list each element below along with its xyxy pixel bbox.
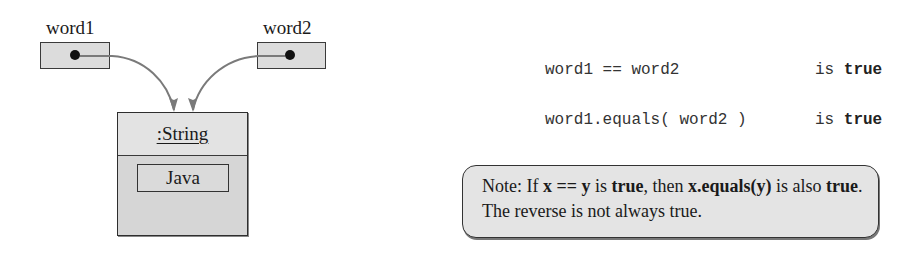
object-type-title: :String xyxy=(157,123,209,145)
reference-dot-icon xyxy=(70,50,80,60)
note-text: is also xyxy=(772,176,827,196)
note-expr-equals: x.equals(y) xyxy=(688,176,772,196)
is-label: is xyxy=(815,111,834,129)
comparison-expression-2: word1.equals( word2 ) xyxy=(545,111,747,129)
comparison-result-2: is true xyxy=(815,111,882,129)
note-true: true xyxy=(612,176,644,196)
reference-dot-icon xyxy=(285,50,295,60)
result-value: true xyxy=(844,61,882,79)
result-value: true xyxy=(844,111,882,129)
string-object: :String Java xyxy=(117,112,248,236)
note-text: is xyxy=(591,176,612,196)
is-label: is xyxy=(815,61,834,79)
note-true: true xyxy=(826,176,858,196)
note-box: Note: If x == y is true, then x.equals(y… xyxy=(462,165,879,238)
object-header: :String xyxy=(118,113,247,156)
comparison-expression-1: word1 == word2 xyxy=(545,61,679,79)
comparison-result-1: is true xyxy=(815,61,882,79)
note-expr-equality: x == y xyxy=(543,176,591,196)
reference-box-word1 xyxy=(40,42,110,69)
object-value-box: Java xyxy=(137,164,229,192)
variable-label-word2: word2 xyxy=(263,18,312,37)
reference-box-word2 xyxy=(257,42,326,69)
object-value: Java xyxy=(166,167,200,189)
note-text: Note: If xyxy=(482,176,543,196)
variable-label-word1: word1 xyxy=(46,18,95,37)
note-text: , then xyxy=(644,176,689,196)
